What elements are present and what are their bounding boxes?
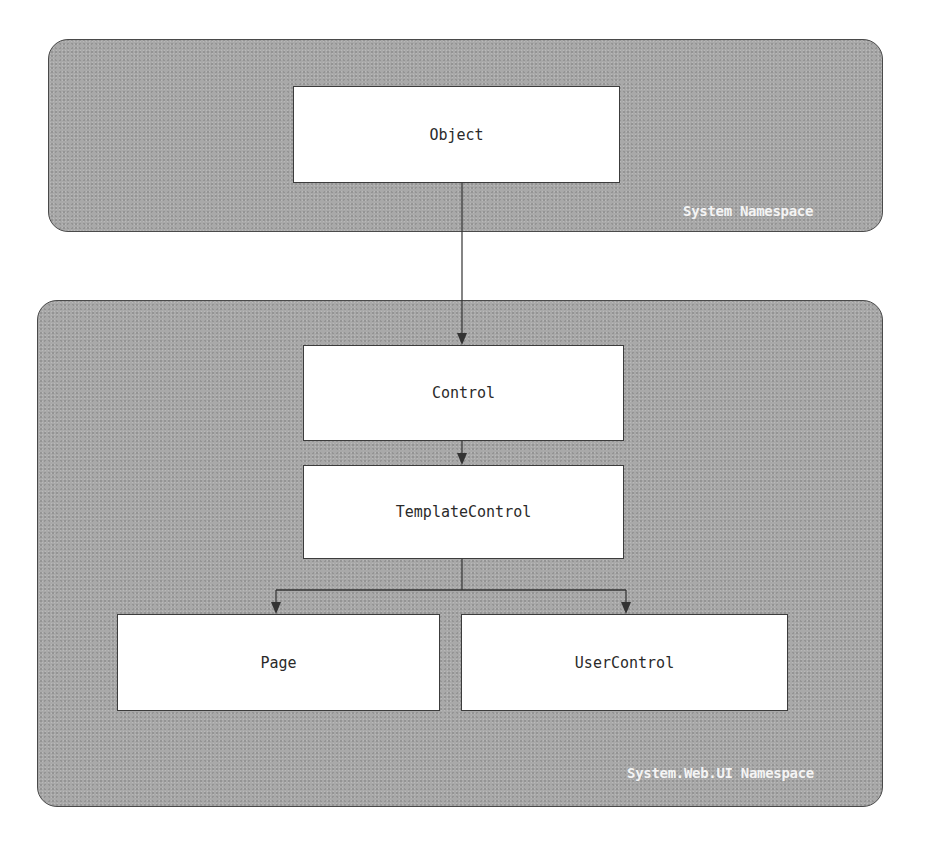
class-box-page: Page bbox=[117, 614, 440, 711]
class-label: TemplateControl bbox=[396, 503, 531, 521]
class-label: Object bbox=[429, 126, 483, 144]
class-label: Page bbox=[260, 654, 296, 672]
arrowhead-icon bbox=[271, 602, 281, 614]
class-label: Control bbox=[432, 384, 495, 402]
class-label: UserControl bbox=[575, 654, 674, 672]
class-box-template-control: TemplateControl bbox=[303, 465, 624, 559]
arrowhead-icon bbox=[621, 602, 631, 614]
class-box-object: Object bbox=[293, 86, 620, 183]
class-box-user-control: UserControl bbox=[461, 614, 788, 711]
class-box-control: Control bbox=[303, 345, 624, 441]
arrowhead-icon bbox=[457, 453, 467, 465]
arrowhead-icon bbox=[457, 333, 467, 345]
